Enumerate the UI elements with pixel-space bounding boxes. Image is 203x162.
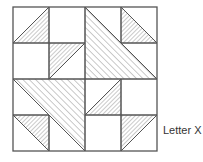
small-triangle-center-left <box>49 43 85 79</box>
small-triangle-top-left <box>13 7 49 43</box>
quilt-block-diagram <box>0 0 203 162</box>
small-triangle-top-right <box>121 7 157 43</box>
figure-caption: Letter X <box>163 124 202 136</box>
small-triangle-bottom-right <box>121 115 157 151</box>
small-triangle-center-right <box>85 79 121 115</box>
small-triangle-bottom-left <box>13 115 49 151</box>
